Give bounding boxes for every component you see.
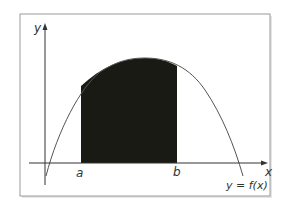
x-axis-label: x xyxy=(264,165,273,179)
bound-b-label: b xyxy=(173,165,181,179)
bound-a-label: a xyxy=(76,166,83,180)
diagram-canvas: y x a b y = f(x) xyxy=(0,0,295,209)
area-under-curve-diagram: y x a b y = f(x) xyxy=(0,0,295,209)
y-axis-label: y xyxy=(33,21,42,35)
curve-equation-label: y = f(x) xyxy=(225,179,268,192)
